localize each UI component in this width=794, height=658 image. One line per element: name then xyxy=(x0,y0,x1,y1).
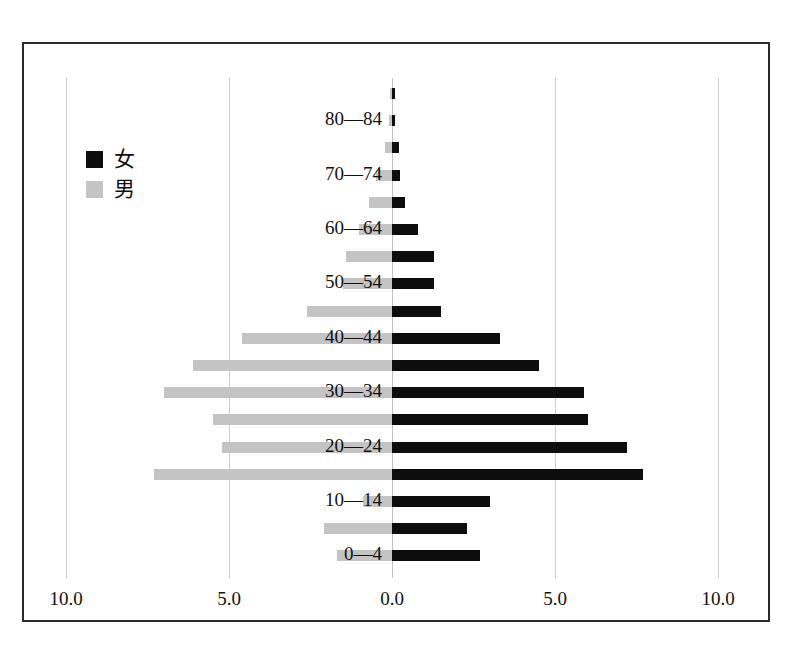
chart-legend: 女 男 xyxy=(86,144,236,204)
bar-row xyxy=(24,298,772,325)
legend-label-male: 男 xyxy=(114,179,135,200)
bar-male xyxy=(213,414,392,425)
bar-male xyxy=(324,523,392,534)
bar-female xyxy=(392,251,434,262)
bar-row xyxy=(24,80,772,107)
legend-swatch-male-icon xyxy=(86,181,103,198)
legend-label-female: 女 xyxy=(114,149,135,170)
bar-female xyxy=(392,550,480,561)
bar-female xyxy=(392,496,490,507)
bar-row xyxy=(24,515,772,542)
legend-swatch-female-icon xyxy=(86,151,103,168)
x-tick-label: 5.0 xyxy=(543,589,567,608)
category-label: 80—84 xyxy=(24,109,382,128)
x-tick-label: 10.0 xyxy=(701,589,734,608)
category-label: 50—54 xyxy=(24,272,382,291)
bar-male xyxy=(385,142,392,153)
category-label: 30—34 xyxy=(24,381,382,400)
bar-male xyxy=(307,306,392,317)
category-label: 10—14 xyxy=(24,490,382,509)
bar-female xyxy=(392,333,500,344)
bar-female xyxy=(392,197,405,208)
bar-female xyxy=(392,306,441,317)
bar-female xyxy=(392,387,584,398)
bar-male xyxy=(346,251,392,262)
x-tick-label: 0.0 xyxy=(380,589,404,608)
category-label: 40—44 xyxy=(24,327,382,346)
bar-female xyxy=(392,115,395,126)
bar-female xyxy=(392,278,434,289)
bar-row xyxy=(24,243,772,270)
bar-row xyxy=(24,406,772,433)
bar-male xyxy=(369,197,392,208)
legend-item-male: 男 xyxy=(86,174,236,204)
x-tick-label: 5.0 xyxy=(217,589,241,608)
bar-row xyxy=(24,352,772,379)
category-label: 60—64 xyxy=(24,218,382,237)
bar-female xyxy=(392,170,400,181)
bar-female xyxy=(392,360,539,371)
bar-row xyxy=(24,461,772,488)
chart-frame: 80—8470—7460—6450—5440—4430—3420—2410—14… xyxy=(22,42,770,622)
legend-item-female: 女 xyxy=(86,144,236,174)
bar-male xyxy=(154,469,392,480)
plot-area: 80—8470—7460—6450—5440—4430—3420—2410—14… xyxy=(24,44,772,624)
chart-page: 80—8470—7460—6450—5440—4430—3420—2410—14… xyxy=(0,0,794,658)
bar-female xyxy=(392,142,399,153)
category-label: 20—24 xyxy=(24,436,382,455)
bar-female xyxy=(392,469,643,480)
category-label: 0—4 xyxy=(24,544,382,563)
bar-female xyxy=(392,523,467,534)
bar-female xyxy=(392,224,418,235)
x-tick-label: 10.0 xyxy=(49,589,82,608)
bar-female xyxy=(392,442,627,453)
bar-female xyxy=(392,88,395,99)
bar-female xyxy=(392,414,588,425)
bar-male xyxy=(193,360,392,371)
